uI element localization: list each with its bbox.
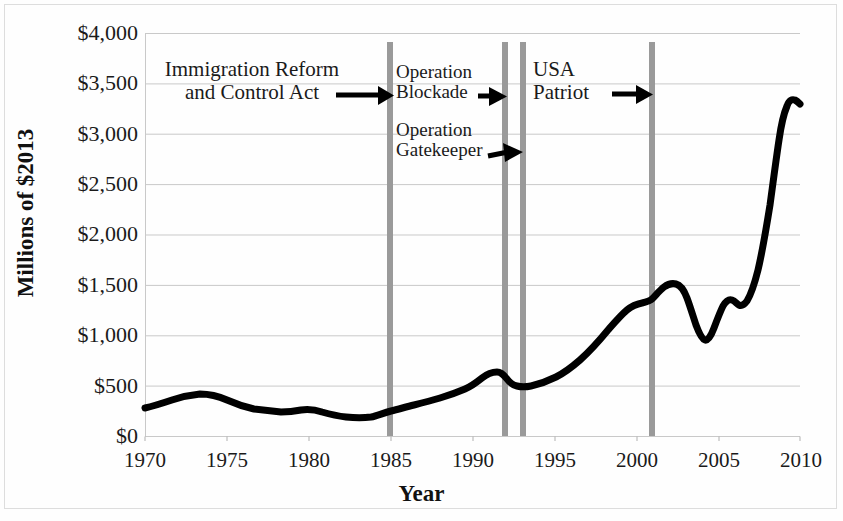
annotation-operation-blockade: Operation Blockade [396,62,488,102]
annotation-usa-patriot: USA Patriot [533,58,633,103]
chart-figure: $4,000 $3,500 $3,000 $2,500 $2,000 $1,50… [0,0,843,521]
x-tick-marks [145,437,800,442]
annotation-ircam: Immigration Reform and Control Act [162,58,342,103]
arrow-ircam [336,86,394,105]
annotation-operation-gatekeeper: Operation Gatekeeper [396,120,506,160]
